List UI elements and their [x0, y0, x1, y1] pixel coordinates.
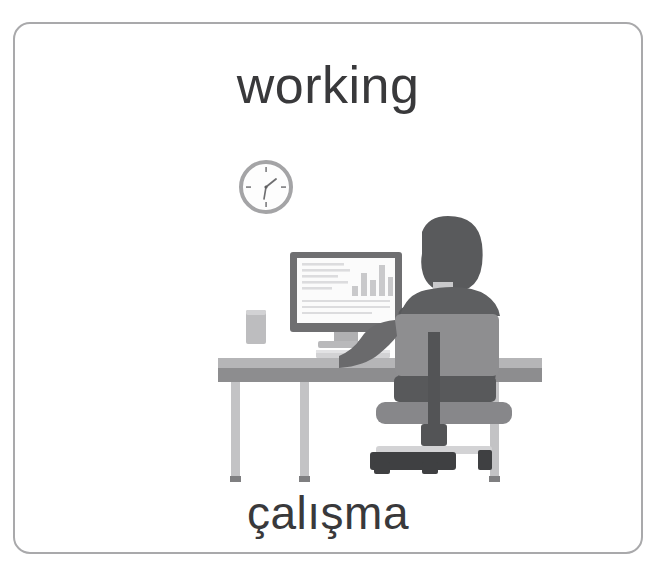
english-word-label: working	[15, 59, 641, 111]
flashcard-card: working	[13, 22, 643, 554]
coffee-mug	[246, 310, 266, 344]
person-working-at-desk-illustration	[190, 214, 570, 494]
desk-foot	[230, 476, 500, 482]
turkish-word-label: çalışma	[15, 490, 641, 536]
wall-clock-icon	[238, 159, 294, 215]
